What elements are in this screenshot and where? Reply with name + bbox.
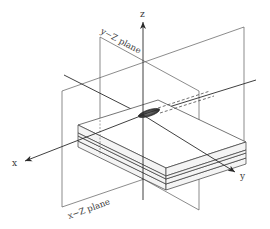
layered-plate [78, 100, 246, 190]
y-axis-label: y [239, 171, 246, 181]
xz-plane-label: x−Z plane [66, 196, 111, 221]
yz-plane-label: y−Z plane [98, 25, 143, 55]
coordinate-diagram: z x y y−Z plane x−Z plane [0, 0, 270, 229]
z-axis-label: z [140, 9, 145, 19]
x-axis-label: x [12, 158, 17, 168]
